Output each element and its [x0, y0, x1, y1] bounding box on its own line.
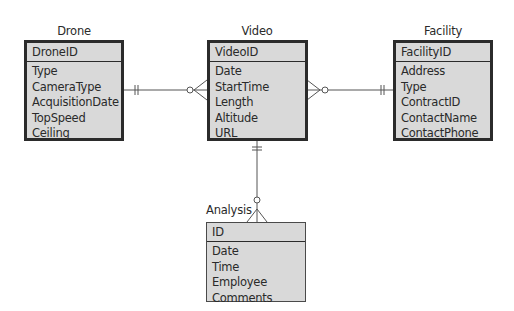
primary-key: ID [207, 223, 305, 242]
attribute: ContactName [401, 111, 490, 127]
attribute-list: Address Type ContractID ContactName Cont… [396, 62, 490, 142]
attribute: URL [215, 126, 305, 142]
entity-video: VideoID Date StartTime Length Altitude U… [207, 40, 308, 141]
zero-circle-icon [187, 87, 193, 93]
attribute: ContactPhone [401, 126, 490, 142]
attribute: Employee [212, 275, 305, 291]
attribute: Time [212, 260, 305, 276]
attribute: Length [215, 95, 305, 111]
relationship-drone-video [123, 80, 207, 100]
attribute-list: Type CameraType AcquisitionDate TopSpeed… [27, 62, 121, 142]
attribute-list: Date Time Employee Comments [207, 242, 305, 306]
entity-title-analysis: Analysis [206, 203, 252, 217]
attribute: Ceiling [32, 126, 121, 142]
entity-analysis: ID Date Time Employee Comments [206, 222, 306, 302]
attribute: Date [215, 64, 305, 80]
attribute: ContractID [401, 95, 490, 111]
entity-title-facility: Facility [393, 24, 493, 38]
zero-circle-icon [322, 87, 328, 93]
primary-key: VideoID [210, 43, 305, 62]
attribute: StartTime [215, 80, 305, 96]
attribute: Altitude [215, 111, 305, 127]
zero-circle-icon [254, 197, 260, 203]
er-diagram: Drone DroneID Type CameraType Acquisitio… [0, 0, 514, 311]
entity-title-video: Video [207, 24, 307, 38]
primary-key: DroneID [27, 43, 121, 62]
entity-title-drone: Drone [24, 24, 124, 38]
attribute: Address [401, 64, 490, 80]
attribute: AcquisitionDate [32, 95, 121, 111]
attribute: TopSpeed [32, 111, 121, 127]
attribute: Type [401, 80, 490, 96]
attribute: Comments [212, 291, 305, 307]
attribute: CameraType [32, 80, 121, 96]
attribute: Type [32, 64, 121, 80]
relationship-video-facility [307, 80, 393, 100]
entity-facility: FacilityID Address Type ContractID Conta… [393, 40, 493, 141]
entity-drone: DroneID Type CameraType AcquisitionDate … [24, 40, 124, 141]
attribute: Date [212, 244, 305, 260]
attribute-list: Date StartTime Length Altitude URL [210, 62, 305, 142]
primary-key: FacilityID [396, 43, 490, 62]
